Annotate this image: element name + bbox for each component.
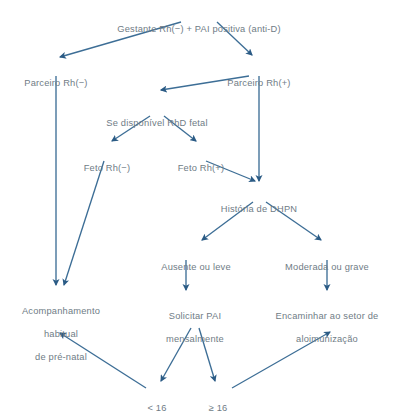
node-historia-de-dhpn: História de DHPN <box>221 192 297 227</box>
node-solicitar-pai-mensalmente: Solicitar PAI mensalmente <box>166 299 224 357</box>
node-moderada-ou-grave-line-1: Moderada ou grave <box>285 262 369 274</box>
node-encaminhar-aloimunizacao: Encaminhar ao setor de aloimunização <box>276 299 379 357</box>
node-feto-rh-positivo-line-1: Feto Rh(+) <box>178 163 225 175</box>
node-feto-rh-negativo-line-1: Feto Rh(−) <box>84 163 131 175</box>
node-historia-de-dhpn-line-1: História de DHPN <box>221 204 297 216</box>
node-maior-igual-16-semanas: ≥ 16 <box>209 391 228 413</box>
node-acompanhamento-pre-natal-line-2: habitual <box>22 329 100 341</box>
node-se-disponivel-rhd-fetal: Se disponível RhD fetal <box>106 106 207 141</box>
node-acompanhamento-pre-natal-line-1: Acompanhamento <box>22 306 100 318</box>
node-parceiro-rh-positivo-line-1: Parceiro Rh(+) <box>227 78 290 90</box>
node-ausente-ou-leve: Ausente ou leve <box>161 250 230 285</box>
node-encaminhar-aloimunizacao-line-1: Encaminhar ao setor de <box>276 311 379 323</box>
node-se-disponivel-rhd-fetal-line-1: Se disponível RhD fetal <box>106 118 207 130</box>
node-gestante-line-1: Gestante Rh(−) + PAI positiva (anti-D) <box>117 24 280 36</box>
node-parceiro-rh-positivo: Parceiro Rh(+) <box>227 66 290 101</box>
node-encaminhar-aloimunizacao-line-2: aloimunização <box>276 334 379 346</box>
node-solicitar-pai-mensalmente-line-1: Solicitar PAI <box>166 311 224 323</box>
node-ausente-ou-leve-line-1: Ausente ou leve <box>161 262 230 274</box>
flowchart-diagram: Gestante Rh(−) + PAI positiva (anti-D) P… <box>0 0 394 413</box>
node-solicitar-pai-mensalmente-line-2: mensalmente <box>166 334 224 346</box>
node-menor-16-semanas: < 16 <box>147 391 166 413</box>
node-parceiro-rh-negativo-line-1: Parceiro Rh(−) <box>24 78 87 90</box>
node-moderada-ou-grave: Moderada ou grave <box>285 250 369 285</box>
node-feto-rh-positivo: Feto Rh(+) <box>178 151 225 186</box>
node-maior-igual-16-semanas-line-1: ≥ 16 <box>209 403 228 413</box>
node-menor-16-semanas-line-1: < 16 <box>147 403 166 413</box>
node-acompanhamento-pre-natal-line-3: de pré-natal <box>22 352 100 364</box>
node-feto-rh-negativo: Feto Rh(−) <box>84 151 131 186</box>
node-parceiro-rh-negativo: Parceiro Rh(−) <box>24 66 87 101</box>
node-acompanhamento-pre-natal: Acompanhamento habitual de pré-natal <box>22 294 100 375</box>
node-gestante: Gestante Rh(−) + PAI positiva (anti-D) <box>117 12 280 47</box>
